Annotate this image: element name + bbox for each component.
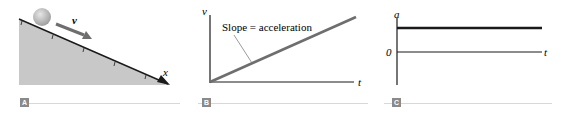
acceleration-time-graph: a t 0 (376, 0, 566, 116)
slope-annotation: Slope = acceleration (222, 21, 312, 33)
panel-b-velocity-graph: v t Slope = acceleration B (190, 0, 380, 116)
t-axis-label: t (358, 76, 362, 88)
panel-c-acceleration-graph: a t 0 C (376, 0, 566, 116)
ball-icon (33, 8, 51, 26)
panel-b-rule (198, 103, 368, 104)
panel-c-rule (384, 103, 552, 104)
velocity-time-graph: v t Slope = acceleration (190, 0, 380, 116)
v-axis-label: v (202, 5, 207, 17)
zero-label: 0 (386, 46, 392, 58)
panel-a-rule (20, 103, 180, 104)
x-axis-label: x (162, 66, 168, 78)
panel-a-incline: v⃗ x A (0, 0, 190, 116)
panel-c-badge: C (392, 98, 401, 107)
panel-a-badge: A (20, 98, 29, 107)
panel-b-badge: B (202, 98, 211, 107)
t-axis-label: t (544, 46, 548, 58)
a-axis-label: a (394, 8, 400, 20)
velocity-label: v⃗ (72, 14, 85, 26)
annotation-leader (234, 35, 252, 63)
